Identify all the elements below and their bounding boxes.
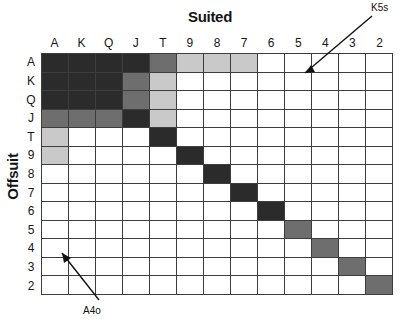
hand-cell-54o[interactable] — [285, 239, 312, 258]
hand-cell-T6s[interactable] — [258, 128, 285, 147]
hand-cell-J5s[interactable] — [285, 110, 312, 129]
hand-cell-Q5s[interactable] — [285, 91, 312, 110]
hand-cell-ATs[interactable] — [150, 54, 177, 73]
hand-cell-65o[interactable] — [258, 221, 285, 240]
hand-cell-A9s[interactable] — [177, 54, 204, 73]
hand-cell-74s[interactable] — [312, 184, 339, 203]
hand-cell-94o[interactable] — [177, 239, 204, 258]
hand-cell-J4o[interactable] — [123, 239, 150, 258]
hand-cell-A2o[interactable] — [42, 276, 69, 295]
hand-cell-Q9o[interactable] — [96, 147, 123, 166]
hand-cell-K4o[interactable] — [69, 239, 96, 258]
hand-cell-43o[interactable] — [312, 258, 339, 277]
hand-cell-83o[interactable] — [204, 258, 231, 277]
hand-cell-J8s[interactable] — [204, 110, 231, 129]
hand-cell-K9s[interactable] — [177, 73, 204, 92]
hand-cell-55[interactable] — [285, 221, 312, 240]
hand-cell-KQs[interactable] — [96, 73, 123, 92]
hand-cell-Q8s[interactable] — [204, 91, 231, 110]
hand-cell-ATo[interactable] — [42, 128, 69, 147]
hand-cell-T9s[interactable] — [177, 128, 204, 147]
hand-cell-A4s[interactable] — [312, 54, 339, 73]
hand-cell-AA[interactable] — [42, 54, 69, 73]
hand-cell-87s[interactable] — [231, 165, 258, 184]
hand-cell-53s[interactable] — [339, 221, 366, 240]
hand-cell-96o[interactable] — [177, 202, 204, 221]
hand-cell-TT[interactable] — [150, 128, 177, 147]
hand-cell-73s[interactable] — [339, 184, 366, 203]
hand-cell-87o[interactable] — [204, 184, 231, 203]
hand-cell-65s[interactable] — [285, 202, 312, 221]
hand-cell-KQo[interactable] — [69, 91, 96, 110]
hand-cell-33[interactable] — [339, 258, 366, 277]
hand-cell-AQs[interactable] — [96, 54, 123, 73]
hand-cell-T8o[interactable] — [150, 165, 177, 184]
hand-cell-QQ[interactable] — [96, 91, 123, 110]
hand-cell-84s[interactable] — [312, 165, 339, 184]
hand-cell-J7o[interactable] — [123, 184, 150, 203]
hand-cell-A9o[interactable] — [42, 147, 69, 166]
hand-cell-K6o[interactable] — [69, 202, 96, 221]
hand-cell-A2s[interactable] — [366, 54, 393, 73]
hand-cell-T5s[interactable] — [285, 128, 312, 147]
hand-cell-A3o[interactable] — [42, 258, 69, 277]
hand-cell-22[interactable] — [366, 276, 393, 295]
hand-cell-95s[interactable] — [285, 147, 312, 166]
hand-cell-T3o[interactable] — [150, 258, 177, 277]
hand-cell-T7o[interactable] — [150, 184, 177, 203]
hand-cell-JTo[interactable] — [123, 128, 150, 147]
hand-cell-85s[interactable] — [285, 165, 312, 184]
hand-cell-K3s[interactable] — [339, 73, 366, 92]
hand-cell-A7o[interactable] — [42, 184, 69, 203]
hand-cell-88[interactable] — [204, 165, 231, 184]
hand-cell-86o[interactable] — [204, 202, 231, 221]
hand-cell-JJ[interactable] — [123, 110, 150, 129]
hand-cell-72s[interactable] — [366, 184, 393, 203]
hand-cell-52o[interactable] — [285, 276, 312, 295]
hand-cell-44[interactable] — [312, 239, 339, 258]
hand-cell-T2s[interactable] — [366, 128, 393, 147]
hand-cell-J9o[interactable] — [123, 147, 150, 166]
hand-cell-J3s[interactable] — [339, 110, 366, 129]
hand-cell-A3s[interactable] — [339, 54, 366, 73]
hand-cell-T8s[interactable] — [204, 128, 231, 147]
hand-cell-KJo[interactable] — [69, 110, 96, 129]
hand-cell-Q6s[interactable] — [258, 91, 285, 110]
hand-cell-QTs[interactable] — [150, 91, 177, 110]
hand-cell-A8s[interactable] — [204, 54, 231, 73]
hand-cell-Q3o[interactable] — [96, 258, 123, 277]
hand-cell-64o[interactable] — [258, 239, 285, 258]
hand-cell-K7s[interactable] — [231, 73, 258, 92]
hand-cell-K5s[interactable] — [285, 73, 312, 92]
hand-cell-72o[interactable] — [231, 276, 258, 295]
hand-cell-T2o[interactable] — [150, 276, 177, 295]
hand-cell-99[interactable] — [177, 147, 204, 166]
hand-cell-T4s[interactable] — [312, 128, 339, 147]
hand-cell-93o[interactable] — [177, 258, 204, 277]
hand-cell-92o[interactable] — [177, 276, 204, 295]
hand-cell-K2o[interactable] — [69, 276, 96, 295]
hand-cell-93s[interactable] — [339, 147, 366, 166]
hand-cell-Q7o[interactable] — [96, 184, 123, 203]
hand-cell-AQo[interactable] — [42, 91, 69, 110]
hand-cell-63s[interactable] — [339, 202, 366, 221]
hand-cell-Q6o[interactable] — [96, 202, 123, 221]
hand-cell-98o[interactable] — [177, 165, 204, 184]
hand-cell-KK[interactable] — [69, 73, 96, 92]
hand-cell-J3o[interactable] — [123, 258, 150, 277]
hand-cell-K4s[interactable] — [312, 73, 339, 92]
hand-cell-96s[interactable] — [258, 147, 285, 166]
hand-cell-75s[interactable] — [285, 184, 312, 203]
hand-cell-AJo[interactable] — [42, 110, 69, 129]
hand-cell-62s[interactable] — [366, 202, 393, 221]
hand-cell-J6s[interactable] — [258, 110, 285, 129]
hand-cell-Q5o[interactable] — [96, 221, 123, 240]
hand-cell-J4s[interactable] — [312, 110, 339, 129]
hand-matrix-grid[interactable] — [41, 53, 393, 295]
hand-cell-J5o[interactable] — [123, 221, 150, 240]
hand-cell-T5o[interactable] — [150, 221, 177, 240]
hand-cell-43s[interactable] — [339, 239, 366, 258]
hand-cell-AKo[interactable] — [42, 73, 69, 92]
hand-cell-64s[interactable] — [312, 202, 339, 221]
hand-cell-J9s[interactable] — [177, 110, 204, 129]
